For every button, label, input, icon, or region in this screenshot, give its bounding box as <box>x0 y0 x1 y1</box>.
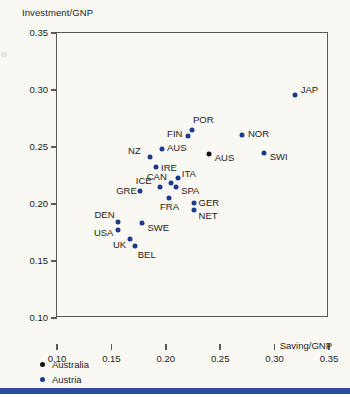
chart-title: Investment/GNP <box>22 7 93 18</box>
data-point-label: GER <box>199 197 220 208</box>
data-point <box>186 133 191 138</box>
plot-area: 0.100.150.200.250.300.35 0.100.150.200.2… <box>56 32 328 317</box>
data-point-label: AUS <box>215 152 235 163</box>
data-point <box>140 220 145 225</box>
data-point-label: ITA <box>182 168 196 179</box>
x-tick-mark <box>274 344 276 350</box>
data-point-label: NZ <box>128 145 141 156</box>
data-point-label: JAP <box>301 84 318 95</box>
data-point <box>261 150 266 155</box>
data-point-label: SPA <box>181 185 199 196</box>
data-point <box>127 237 132 242</box>
data-point <box>292 93 297 98</box>
data-point-label: AUS <box>167 142 187 153</box>
chart-legend: AustraliaAustria <box>40 357 89 387</box>
x-tick-mark <box>111 344 113 350</box>
y-tick-mark <box>51 203 57 205</box>
data-point-label: POR <box>193 114 214 125</box>
data-point <box>157 185 162 190</box>
data-point-label: NET <box>199 210 218 221</box>
data-point-label: USA <box>94 227 114 238</box>
y-tick-label: 0.10 <box>30 312 49 323</box>
y-tick-label: 0.30 <box>30 84 49 95</box>
x-tick-mark <box>219 344 221 350</box>
data-point-label: NOR <box>248 128 269 139</box>
data-point-label: SWE <box>147 222 169 233</box>
x-tick-label: 0.35 <box>320 353 339 364</box>
legend-item: Austria <box>40 372 89 387</box>
data-point-label: DEN <box>94 209 114 220</box>
data-point <box>154 164 159 169</box>
data-point <box>167 195 172 200</box>
x-tick-label: 0.15 <box>102 353 121 364</box>
x-tick-label: 0.20 <box>157 353 176 364</box>
data-point <box>174 185 179 190</box>
data-point <box>116 220 121 225</box>
y-tick-mark <box>51 260 57 262</box>
y-tick-label: 0.15 <box>30 255 49 266</box>
data-point <box>189 127 194 132</box>
data-point-label: FRA <box>160 201 179 212</box>
scatter-plot-figure: Investment/GNP 0.100.150.200.250.300.35 … <box>0 0 350 397</box>
data-point <box>148 154 153 159</box>
data-point-label: ICE <box>136 175 152 186</box>
data-point-label: UK <box>113 239 126 250</box>
y-tick-label: 0.25 <box>30 141 49 152</box>
data-point-label: GRE <box>116 185 137 196</box>
y-tick-mark <box>51 146 57 148</box>
data-point <box>191 201 196 206</box>
legend-marker-icon <box>40 377 45 382</box>
data-point <box>132 243 137 248</box>
data-point <box>168 180 173 185</box>
y-tick-mark <box>51 32 57 34</box>
x-tick-label: 0.30 <box>265 353 284 364</box>
data-point <box>138 189 143 194</box>
data-point <box>159 146 164 151</box>
data-point-label: SWI <box>270 151 288 162</box>
data-point <box>115 227 120 232</box>
x-tick-mark <box>165 344 167 350</box>
y-tick-mark <box>51 317 57 319</box>
data-point-label: BEL <box>138 249 156 260</box>
legend-marker-icon <box>40 362 45 367</box>
data-point <box>175 175 180 180</box>
legend-item: Australia <box>40 357 89 372</box>
x-axis-label: Saving/GNP <box>280 340 332 351</box>
x-tick-mark <box>56 344 58 350</box>
y-tick-label: 0.20 <box>30 198 49 209</box>
data-point <box>239 133 244 138</box>
page-edge-artifact <box>1 52 7 57</box>
data-point-label: FIN <box>167 128 182 139</box>
x-tick-label: 0.25 <box>211 353 230 364</box>
y-tick-mark <box>51 89 57 91</box>
legend-label: Austria <box>52 374 82 385</box>
data-point <box>191 207 196 212</box>
data-point <box>206 152 211 157</box>
y-tick-label: 0.35 <box>30 27 49 38</box>
legend-label: Australia <box>52 359 89 370</box>
